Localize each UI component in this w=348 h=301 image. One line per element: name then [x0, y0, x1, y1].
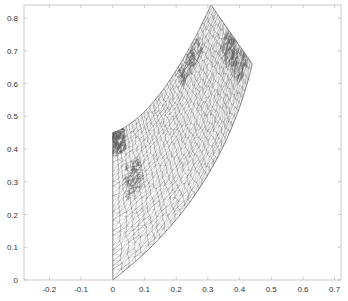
x-tick-label: 0.6 — [297, 285, 309, 294]
y-tick-label: 0.6 — [7, 80, 19, 89]
x-tick-label: 0.3 — [202, 285, 214, 294]
x-tick-label: 0.4 — [234, 285, 246, 294]
triangular-mesh — [113, 5, 252, 280]
x-tick-label: 0.1 — [139, 285, 151, 294]
y-tick-label: 0.1 — [7, 243, 19, 252]
x-tick-label: -0.1 — [74, 285, 88, 294]
x-tick-label: 0 — [111, 285, 116, 294]
y-tick-label: 0.8 — [7, 14, 19, 23]
y-tick-label: 0.2 — [7, 211, 19, 220]
x-tick-label: 0.5 — [266, 285, 278, 294]
x-tick-label: 0.2 — [171, 285, 183, 294]
x-tick-label: 0.7 — [329, 285, 341, 294]
y-tick-label: 0.5 — [7, 112, 19, 121]
x-tick-label: -0.2 — [42, 285, 56, 294]
mesh-plot: -0.2-0.100.10.20.30.40.50.60.7 00.10.20.… — [0, 0, 348, 301]
mesh-refined-triangles — [113, 31, 249, 201]
y-tick-label: 0.3 — [7, 178, 19, 187]
y-tick-label: 0 — [14, 276, 19, 285]
y-tick-label: 0.7 — [7, 47, 19, 56]
y-tick-label: 0.4 — [7, 145, 19, 154]
